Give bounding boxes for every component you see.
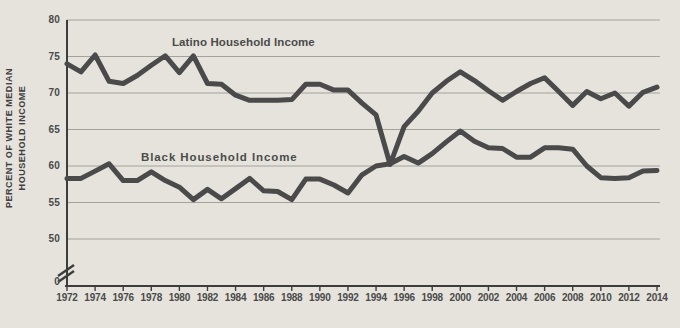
y-tick-label-80: 80 [34, 14, 60, 25]
x-tick-label-2010: 2010 [586, 292, 616, 303]
x-tick-label-2008: 2008 [558, 292, 588, 303]
y-tick-label-50: 50 [34, 233, 60, 244]
x-tick-label-1972: 1972 [52, 292, 82, 303]
line-chart-plot [0, 0, 680, 328]
data-line-black [67, 131, 657, 200]
y-axis-title-line2: HOUSEHOLD INCOME [16, 58, 29, 218]
y-tick-label-70: 70 [34, 87, 60, 98]
x-tick-label-1994: 1994 [361, 292, 391, 303]
x-tick-label-2002: 2002 [473, 292, 503, 303]
y-axis-title: PERCENT OF WHITE MEDIAN HOUSEHOLD INCOME [3, 58, 31, 218]
x-tick-label-1998: 1998 [417, 292, 447, 303]
x-tick-label-1976: 1976 [108, 292, 138, 303]
x-tick-label-1978: 1978 [136, 292, 166, 303]
x-tick-label-1992: 1992 [333, 292, 363, 303]
y-tick-label-65: 65 [34, 124, 60, 135]
y-tick-label-60: 60 [34, 160, 60, 171]
y-tick-label-75: 75 [34, 51, 60, 62]
x-tick-label-1974: 1974 [80, 292, 110, 303]
x-tick-label-1980: 1980 [164, 292, 194, 303]
x-tick-label-1986: 1986 [249, 292, 279, 303]
x-tick-label-1984: 1984 [221, 292, 251, 303]
x-tick-label-2000: 2000 [445, 292, 475, 303]
y-tick-label-0: 0 [34, 276, 60, 287]
y-tick-label-55: 55 [34, 197, 60, 208]
series-label-black: Black Household Income [141, 151, 298, 163]
x-tick-label-2014: 2014 [642, 292, 672, 303]
x-tick-label-2012: 2012 [614, 292, 644, 303]
x-tick-label-2006: 2006 [530, 292, 560, 303]
x-tick-label-1982: 1982 [192, 292, 222, 303]
chart-canvas: PERCENT OF WHITE MEDIAN HOUSEHOLD INCOME… [0, 0, 680, 328]
x-tick-label-1996: 1996 [389, 292, 419, 303]
y-axis-title-line1: PERCENT OF WHITE MEDIAN [3, 58, 16, 218]
x-tick-label-1988: 1988 [277, 292, 307, 303]
x-tick-label-2004: 2004 [502, 292, 532, 303]
series-label-latino: Latino Household Income [172, 36, 315, 48]
x-tick-label-1990: 1990 [305, 292, 335, 303]
